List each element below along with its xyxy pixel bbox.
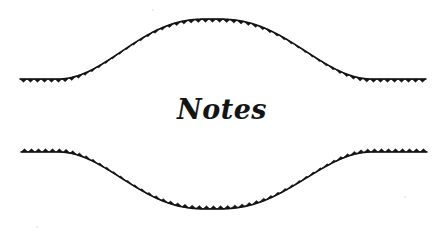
notes-heading: Notes	[0, 93, 444, 127]
upper-rule-teeth	[20, 19, 426, 82]
upper-rule-spine	[20, 19, 426, 79]
lower-rule-teeth	[21, 149, 427, 209]
lower-rule-spine	[21, 152, 427, 209]
notes-divider-page: Notes	[0, 0, 444, 234]
